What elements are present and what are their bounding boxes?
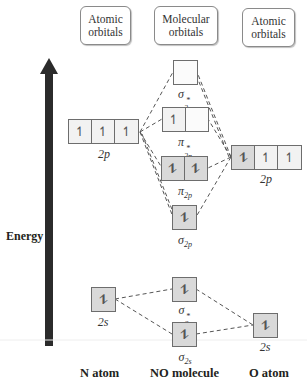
electron-cell: ↿ [92,120,115,143]
electron-cell: ↿ [69,120,92,143]
orbital-sub: 2p [184,191,192,200]
sigma-star-2p-orbital [173,60,198,85]
electron-cell: ⥮ [173,278,196,301]
o-2p-label: 2p [246,172,286,187]
no-molecule-label: NO molecule [150,366,219,381]
electron-cell: ↿ [115,120,138,143]
n-2s-label: 2s [83,315,123,330]
electron-cell: ⥮ [254,314,277,337]
energy-axis-label: Energy [6,229,43,244]
pi-2p-label: π2p [165,184,205,200]
sigma-2p-orbital: ⥮ [172,205,197,230]
electron-cell: ↿ [278,146,301,169]
electron-cell: ⥮ [185,157,207,180]
sigma-2p-label: σ2p [165,233,205,249]
o-2s-label: 2s [245,340,285,355]
electron-cell: ⥮ [92,288,115,311]
n-2p-orbital: ↿ ↿ ↿ [68,119,139,144]
n-2s-orbital: ⥮ [91,287,116,312]
pi-star-2p-orbital: ↿ [162,107,209,132]
n-2p-label: 2p [84,147,124,162]
o-atom-label: O atom [249,366,289,381]
sigma-2s-label: σ2s [165,350,205,366]
o-2s-orbital: ⥮ [253,313,278,338]
sigma-2s-orbital: ⥮ [172,322,197,347]
electron-cell: ↿ [163,108,186,131]
electron-cell: ⥮ [232,146,255,169]
electron-cell [174,61,197,84]
sigma-star-2s-orbital: ⥮ [172,277,197,302]
electron-cell: ⥮ [173,323,196,346]
electron-cell: ⥮ [173,206,196,229]
electron-cell: ↿ [255,146,278,169]
orbital-sub: 2p [184,240,192,249]
n-atom-label: N atom [80,366,119,381]
up-arrow-icon [40,58,58,346]
pi-2p-orbital: ⥮ ⥮ [161,156,208,181]
electron-cell: ⥮ [162,157,185,180]
o-2p-orbital: ⥮ ↿ ↿ [231,145,302,170]
electron-cell [186,108,208,131]
